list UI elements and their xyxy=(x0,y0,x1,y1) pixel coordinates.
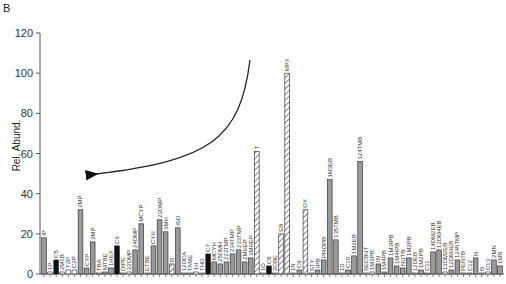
bar xyxy=(96,273,101,274)
bar-label: C13 xyxy=(485,258,491,270)
bar-label: C10 xyxy=(345,256,351,268)
bar xyxy=(333,240,338,274)
y-tick-label: 80 xyxy=(21,107,33,119)
bar xyxy=(485,272,490,274)
bar xyxy=(181,273,186,274)
bar xyxy=(443,272,448,274)
bar xyxy=(394,266,399,274)
bar-label: 3MH xyxy=(163,217,169,230)
bar xyxy=(224,262,229,274)
bar xyxy=(431,252,436,274)
bar xyxy=(267,266,272,274)
bar xyxy=(425,273,430,274)
bar xyxy=(236,250,241,274)
bar-label: 135TMB xyxy=(333,215,339,238)
bar xyxy=(133,250,138,274)
bar xyxy=(242,262,247,274)
bar xyxy=(400,268,405,274)
bar xyxy=(175,228,180,274)
bar xyxy=(254,151,259,274)
bar xyxy=(388,258,393,274)
bar-label: 3MHEP xyxy=(248,235,254,256)
bar xyxy=(66,270,71,274)
bar xyxy=(449,270,454,274)
bar-label: 24DMP xyxy=(132,228,138,248)
bar xyxy=(218,264,223,274)
bar xyxy=(145,273,150,274)
bar-label: EB xyxy=(278,224,284,232)
bar-label: C9 xyxy=(296,260,302,268)
bar xyxy=(78,210,83,274)
bar xyxy=(60,272,65,274)
bar xyxy=(261,273,266,274)
bar xyxy=(84,268,89,274)
bar-label: C2P xyxy=(71,256,77,268)
bar xyxy=(72,270,77,274)
bar xyxy=(492,260,497,274)
bar xyxy=(248,258,253,274)
y-tick-label: 0 xyxy=(27,268,33,280)
bar xyxy=(230,254,235,274)
bar xyxy=(352,256,357,274)
bar-chart: 020406080100120 IP1PC52M1BT2PC2P2MPCYP3M… xyxy=(0,0,506,284)
bar-label: 124TMB xyxy=(357,137,363,160)
bar-label: THO xyxy=(199,258,205,271)
bar xyxy=(151,246,156,274)
bar xyxy=(127,272,132,274)
bar xyxy=(364,273,369,274)
bar xyxy=(206,254,211,274)
bar-label: PROPB xyxy=(321,237,327,258)
bar xyxy=(163,232,168,274)
y-tick-label: 120 xyxy=(15,27,33,39)
bar xyxy=(297,270,302,274)
bar xyxy=(479,273,484,274)
y-tick-label: 60 xyxy=(21,148,33,160)
bar-label: C12 xyxy=(467,259,473,271)
bar xyxy=(109,268,114,274)
bar-label: IP xyxy=(41,230,47,236)
bar-label: OX xyxy=(302,199,308,208)
bar-label: CYP xyxy=(84,254,90,266)
bar xyxy=(285,73,290,274)
bar xyxy=(412,273,417,274)
bar-label: B xyxy=(169,258,175,262)
bar xyxy=(340,273,345,274)
bar-label: ISO xyxy=(175,215,181,226)
bar-label: 1MN xyxy=(497,251,503,264)
bar-label: 22DMP xyxy=(126,250,132,270)
bar-label: T xyxy=(254,145,260,149)
y-tick-label: 40 xyxy=(21,188,33,200)
bar xyxy=(279,234,284,274)
bar xyxy=(42,238,47,274)
bar-label: MCYP xyxy=(138,204,144,221)
bar xyxy=(188,273,193,274)
bar xyxy=(370,272,375,274)
bar-label: N xyxy=(473,252,479,256)
bar-label: C6 xyxy=(114,236,120,244)
bar-label: 1M2EB xyxy=(351,234,357,254)
bar xyxy=(194,272,199,274)
bar xyxy=(139,224,144,274)
bar xyxy=(358,162,363,274)
bar xyxy=(419,270,424,274)
bar xyxy=(121,273,126,274)
bar xyxy=(406,258,411,274)
bar xyxy=(461,273,466,274)
bar-label: 23DMP xyxy=(157,198,163,218)
bar-label: 1M3EB xyxy=(327,158,333,178)
bar xyxy=(498,266,503,274)
bar xyxy=(115,246,120,274)
bar xyxy=(309,273,314,274)
bar xyxy=(346,270,351,274)
bar-label: ETBE xyxy=(144,255,150,271)
bar-label: 1HEX xyxy=(108,250,114,266)
y-tick-label: 100 xyxy=(15,67,33,79)
bar-label: IPB xyxy=(315,258,321,268)
bar xyxy=(376,264,381,274)
bar xyxy=(212,262,217,274)
bar-label: MPX xyxy=(284,58,290,71)
bar-label: C11 xyxy=(424,260,430,271)
curved-arrow xyxy=(96,60,250,174)
bar xyxy=(157,220,162,274)
bar xyxy=(303,210,308,274)
